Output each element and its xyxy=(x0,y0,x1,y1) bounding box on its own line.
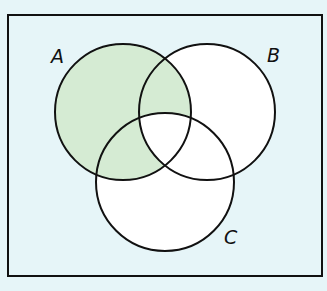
label-a: A xyxy=(49,45,64,67)
label-c: C xyxy=(224,226,238,248)
venn-diagram: A B C xyxy=(0,0,327,291)
label-b: B xyxy=(267,44,280,66)
